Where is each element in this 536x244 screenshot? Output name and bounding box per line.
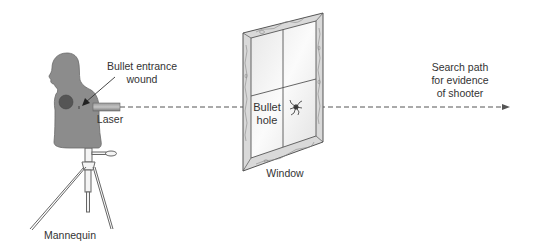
entrance-wound-label-line1: Bullet entrance <box>102 60 182 73</box>
window <box>243 13 323 171</box>
entrance-wound-label: Bullet entrance wound <box>102 60 182 86</box>
ballistics-reconstruction-diagram: Bullet entrance wound Laser Mannequin Bu… <box>0 0 536 244</box>
search-path-label-line2: for evidence <box>430 74 490 87</box>
tripod-stand <box>30 148 117 230</box>
window-label: Window <box>265 167 305 180</box>
search-path-label-line1: Search path <box>430 61 490 74</box>
bullet-hole-label-line1: Bullet <box>253 101 281 114</box>
mannequin-torso <box>49 53 101 148</box>
entrance-wound-mark <box>78 106 80 109</box>
arrowhead-icon <box>502 104 510 110</box>
laser-label: Laser <box>95 113 125 126</box>
search-path-label-line3: of shooter <box>430 87 490 100</box>
bullet-hole-label-line2: hole <box>253 114 281 127</box>
mannequin-chest-spot <box>59 95 73 109</box>
mannequin-label: Mannequin <box>40 229 100 242</box>
laser-device <box>93 103 120 111</box>
entrance-wound-label-line2: wound <box>102 73 182 86</box>
bullet-hole-label: Bullet hole <box>253 101 281 127</box>
search-path-label: Search path for evidence of shooter <box>430 61 490 100</box>
